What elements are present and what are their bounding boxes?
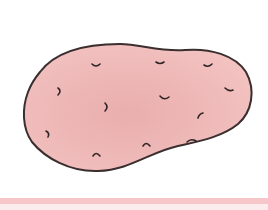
potato-drawing	[0, 0, 268, 210]
potato-body	[24, 44, 252, 171]
ground-underline	[0, 204, 268, 210]
potato-illustration: Hand-drawn pink potato with small eye ma…	[0, 0, 268, 210]
